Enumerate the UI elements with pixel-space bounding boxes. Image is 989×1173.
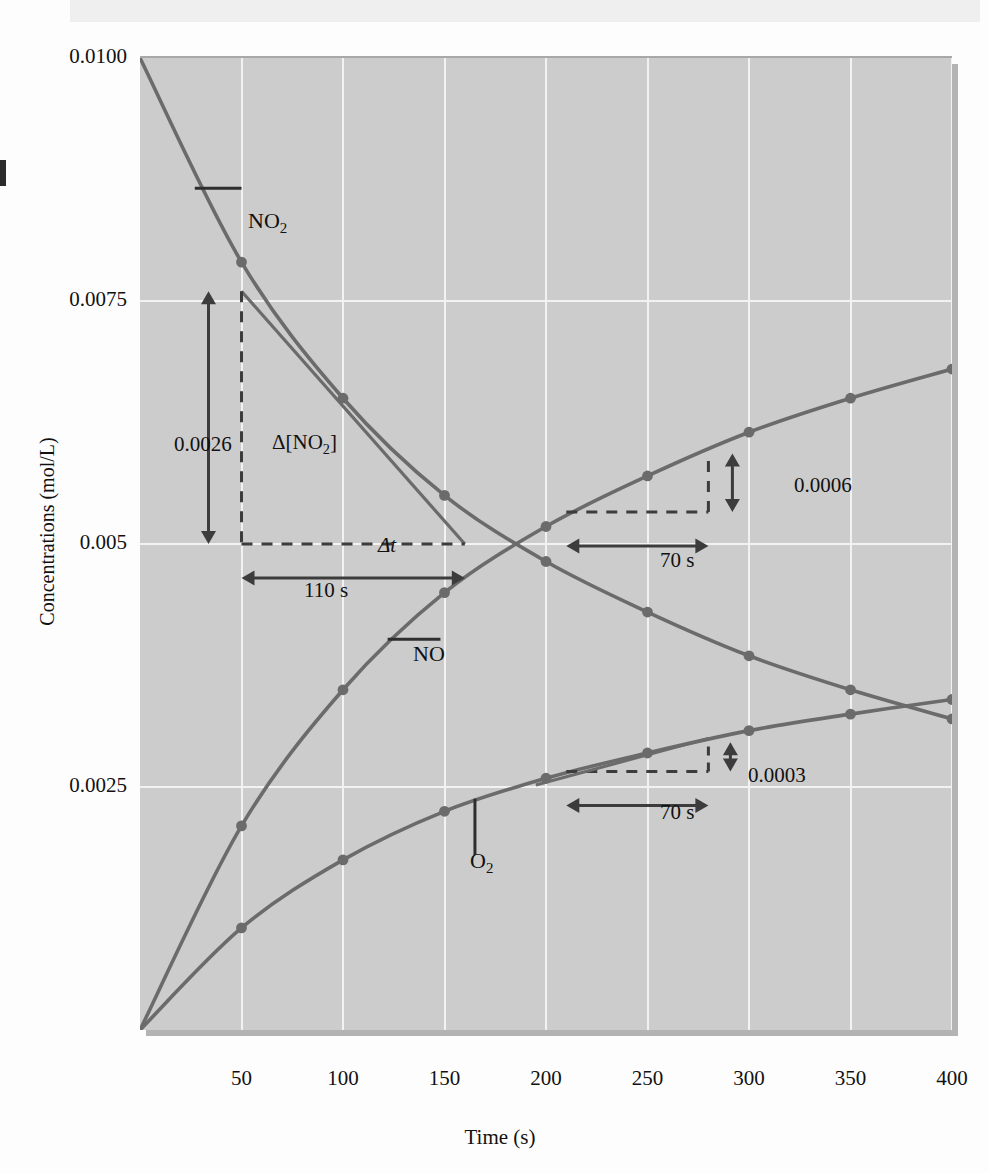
annotation-delta-no2-value: 0.0026 — [174, 432, 232, 457]
annotation-no-tangent — [566, 454, 740, 554]
x-axis-label: Time (s) — [380, 1125, 620, 1150]
y-tick-label-3: 0.0025 — [7, 773, 127, 798]
annotation-no-run-value: 70 s — [660, 548, 694, 573]
x-tick-label-400: 400 — [912, 1066, 989, 1091]
annotation-delta-t-value: 110 s — [304, 578, 348, 603]
arrowhead-70s-o2-left — [566, 798, 579, 813]
arrowhead-o2-down — [723, 758, 738, 771]
annotation-o2-tangent — [536, 738, 738, 813]
arrowhead-no2-up — [201, 291, 216, 304]
arrowhead-110s-left — [242, 571, 255, 586]
annotation-o2-rise-value: 0.0003 — [748, 763, 806, 788]
arrowhead-no2-down — [201, 531, 216, 544]
series-label-no: NO — [413, 641, 445, 667]
arrowhead-no-down — [725, 499, 740, 512]
annotation-delta-no2-symbol: Δ[NO2] — [272, 430, 337, 458]
x-tick-label-200: 200 — [506, 1066, 586, 1091]
annotation-no-rise-value: 0.0006 — [794, 473, 852, 498]
x-tick-label-300: 300 — [709, 1066, 789, 1091]
x-tick-label-250: 250 — [608, 1066, 688, 1091]
annotations-layer — [140, 58, 952, 1030]
arrowhead-70s-no-right — [695, 538, 708, 553]
kinetics-concentration-chart: 0.0100 0.0075 0.005 0.0025 5010015020025… — [0, 0, 989, 1173]
arrowhead-no-up — [725, 454, 740, 467]
x-tick-label-150: 150 — [405, 1066, 485, 1091]
arrowhead-70s-no-left — [566, 538, 579, 553]
y-tick-label-1: 0.0075 — [7, 287, 127, 312]
x-tick-label-100: 100 — [303, 1066, 383, 1091]
x-tick-label-50: 50 — [202, 1066, 282, 1091]
plot-area — [140, 58, 952, 1030]
tangent-line-o2 — [536, 738, 709, 785]
x-tick-label-350: 350 — [811, 1066, 891, 1091]
y-tick-label-2: 0.005 — [7, 530, 127, 555]
series-leader-lines — [195, 188, 475, 855]
annotation-o2-run-value: 70 s — [660, 800, 694, 825]
annotation-delta-t-symbol: Δt — [378, 533, 396, 558]
series-label-no2: NO2 — [248, 208, 287, 237]
tangent-line-no2 — [242, 291, 465, 544]
series-label-o2: O2 — [470, 848, 493, 877]
arrowhead-70s-o2-right — [695, 798, 708, 813]
arrowhead-110s-right — [452, 571, 465, 586]
y-tick-label-0: 0.0100 — [7, 44, 127, 69]
arrowhead-o2-up — [723, 742, 738, 755]
y-axis-label: Concentrations (mol/L) — [36, 382, 59, 682]
